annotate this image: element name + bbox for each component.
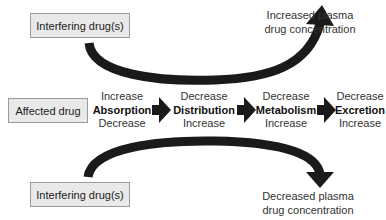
bottom-curved-arrow	[88, 141, 320, 177]
outcome-decreased-line2: drug concentration	[248, 203, 368, 217]
stage-excretion: Decrease Excretion Increase	[334, 90, 386, 131]
stage-absorption: Increase Absorption Decrease	[92, 90, 152, 131]
stage-metabolism-name: Metabolism	[254, 104, 318, 118]
stage-distribution-bottom: Increase	[171, 117, 237, 131]
affected-drug-label: Affected drug	[15, 105, 80, 117]
outcome-increased-line1: Increased plasma	[250, 8, 370, 22]
outcome-increased-line2: drug concentration	[250, 22, 370, 36]
stage-excretion-name: Excretion	[334, 104, 386, 118]
stage-distribution: Decrease Distribution Increase	[171, 90, 237, 131]
outcome-decreased-line1: Decreased plasma	[248, 189, 368, 203]
stage-metabolism: Decrease Metabolism Increase	[254, 90, 318, 131]
outcome-increased: Increased plasma drug concentration	[250, 8, 370, 36]
bottom-arrow-head-icon	[306, 172, 334, 188]
stage-metabolism-bottom: Increase	[254, 117, 318, 131]
stage-excretion-bottom: Increase	[334, 117, 386, 131]
outcome-decreased: Decreased plasma drug concentration	[248, 189, 368, 217]
interfering-drug-bottom-label: Interfering drug(s)	[36, 189, 123, 201]
stage-excretion-top: Decrease	[334, 90, 386, 104]
stage-distribution-name: Distribution	[171, 104, 237, 118]
stage-arrow-1-icon	[152, 97, 171, 123]
interfering-drug-top-box: Interfering drug(s)	[30, 13, 130, 38]
stage-distribution-top: Decrease	[171, 90, 237, 104]
interfering-drug-top-label: Interfering drug(s)	[36, 20, 123, 32]
stage-absorption-name: Absorption	[92, 104, 152, 118]
stage-absorption-bottom: Decrease	[92, 117, 152, 131]
affected-drug-box: Affected drug	[8, 98, 88, 123]
stage-absorption-top: Increase	[92, 90, 152, 104]
stage-metabolism-top: Decrease	[254, 90, 318, 104]
interfering-drug-bottom-box: Interfering drug(s)	[30, 182, 130, 207]
